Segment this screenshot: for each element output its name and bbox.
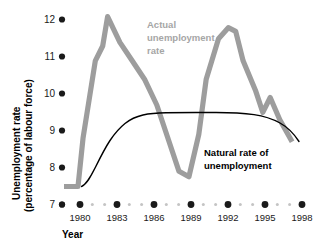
x-tick-dot-minor xyxy=(140,203,143,206)
x-tick-label: 1980 xyxy=(69,212,90,223)
y-tick-dot xyxy=(59,90,65,96)
x-tick-label: 1986 xyxy=(143,212,164,223)
y-tick-label: 10 xyxy=(44,88,56,99)
x-tick-dot-minor xyxy=(239,203,242,206)
series-label-line: unemployment xyxy=(147,32,215,43)
x-tick-label: 1998 xyxy=(291,212,312,223)
chart-container: 12 11 10 9 8 7 xyxy=(0,0,316,245)
x-tick-dot-major xyxy=(188,201,195,208)
x-tick-dot-minor xyxy=(214,203,217,206)
x-tick-dot-minor xyxy=(288,203,291,206)
x-tick-dot-major xyxy=(77,201,84,208)
x-tick-dot-minor xyxy=(177,203,180,206)
y-tick-dot xyxy=(59,53,65,59)
y-tick-dot xyxy=(59,164,65,170)
y-tick-dot xyxy=(59,127,65,133)
x-tick-label: 1995 xyxy=(254,212,275,223)
x-axis-title: Year xyxy=(62,229,83,240)
x-tick-dot-minor xyxy=(103,203,106,206)
y-tick-label: 9 xyxy=(49,125,55,136)
y-tick-label: 12 xyxy=(44,14,56,25)
y-tick-label: 8 xyxy=(49,162,55,173)
unemployment-line-chart: 12 11 10 9 8 7 xyxy=(0,0,316,245)
x-tick-dot-major xyxy=(299,201,306,208)
x-tick-dot-minor xyxy=(165,203,168,206)
series-label-line: rate xyxy=(147,45,164,56)
series-label-line: Natural rate of xyxy=(204,147,269,158)
x-tick-dot-major xyxy=(114,201,121,208)
x-tick-dot-minor xyxy=(202,203,205,206)
x-tick-dot-minor xyxy=(91,203,94,206)
x-tick-dot-major xyxy=(151,201,158,208)
y-axis-title-line1: Unemployment rate xyxy=(11,106,22,200)
y-tick-label: 11 xyxy=(45,51,56,62)
x-tick-label: 1989 xyxy=(180,212,201,223)
x-tick-dot-major xyxy=(262,201,269,208)
x-tick-dot-origin xyxy=(59,201,65,207)
x-tick-label: 1992 xyxy=(217,212,238,223)
x-tick-dot-minor xyxy=(128,203,131,206)
x-tick-dot-minor xyxy=(276,203,279,206)
y-tick-label: 7 xyxy=(49,199,55,210)
series-label-line: unemployment xyxy=(204,160,272,171)
y-axis-title-line2: (percentage of labour force) xyxy=(23,79,34,212)
y-tick-dot xyxy=(59,16,65,22)
series-label-line: Actual xyxy=(147,19,176,30)
x-tick-dot-minor xyxy=(251,203,254,206)
x-tick-dot-major xyxy=(225,201,232,208)
x-tick-label: 1983 xyxy=(106,212,127,223)
